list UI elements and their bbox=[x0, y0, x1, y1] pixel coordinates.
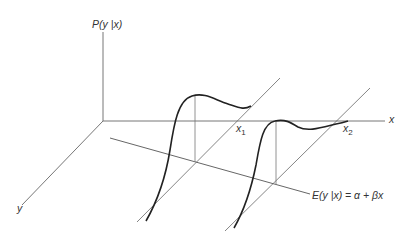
p-axis-label: P(y |x) bbox=[92, 19, 122, 30]
regression-label: E(y |x) = α + βx bbox=[312, 190, 383, 201]
x2-slice-line bbox=[225, 88, 370, 231]
x1-label: x1 bbox=[236, 123, 246, 137]
density-curve-x1 bbox=[146, 95, 251, 221]
x2-label: x2 bbox=[343, 123, 353, 137]
density-curve-x2 bbox=[234, 120, 348, 228]
x2-label-sub: 2 bbox=[348, 128, 352, 137]
y-axis-line bbox=[22, 121, 103, 205]
x-axis-label: x bbox=[389, 114, 394, 125]
regression-line bbox=[110, 138, 310, 194]
y-axis-label: y bbox=[17, 203, 22, 214]
x1-label-sub: 1 bbox=[241, 128, 245, 137]
